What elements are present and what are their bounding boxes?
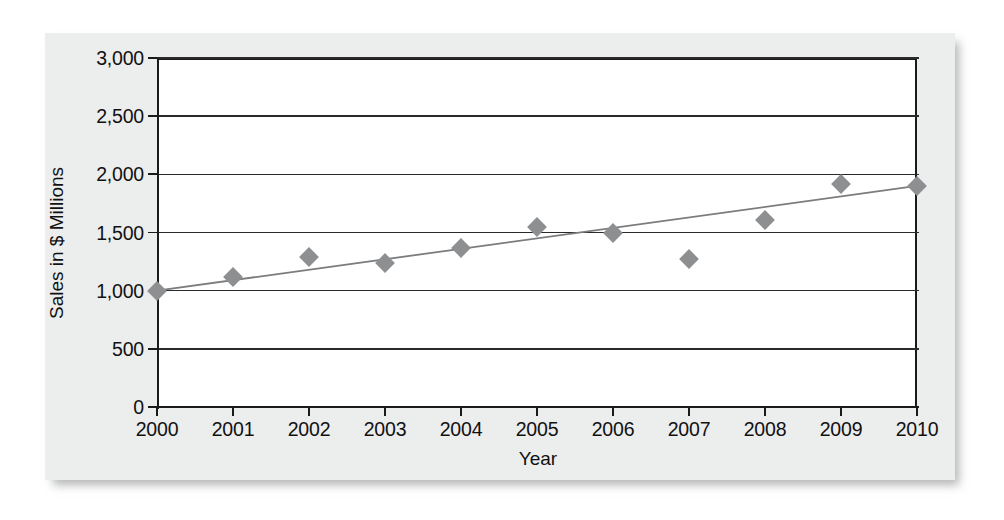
x-axis-line <box>157 406 919 408</box>
y-tick-mark <box>148 115 157 117</box>
y-axis-title: Sales in $ Millions <box>46 123 68 363</box>
y-tick-label: 1,500 <box>96 222 144 245</box>
x-tick-mark <box>688 407 690 416</box>
gridline <box>157 115 919 117</box>
y-tick-label: 500 <box>112 338 144 361</box>
y-axis-line <box>157 58 159 409</box>
x-tick-mark <box>840 407 842 416</box>
y-tick-mark <box>148 232 157 234</box>
x-tick-mark <box>536 407 538 416</box>
x-tick-mark <box>764 407 766 416</box>
gridline <box>157 348 919 350</box>
x-tick-mark <box>612 407 614 416</box>
y-tick-mark <box>148 57 157 59</box>
chart-figure: 05001,0001,5002,0002,5003,000 2000200120… <box>0 0 1004 520</box>
gridline <box>157 290 919 292</box>
x-tick-mark <box>916 407 918 416</box>
y-tick-label: 1,000 <box>96 280 144 303</box>
x-tick-mark <box>384 407 386 416</box>
x-tick-label: 2010 <box>872 418 962 441</box>
x-tick-mark <box>308 407 310 416</box>
gridline <box>157 174 919 176</box>
x-tick-mark <box>232 407 234 416</box>
gridline <box>157 57 919 59</box>
y-tick-label: 0 <box>133 396 144 419</box>
y-tick-mark <box>148 173 157 175</box>
y-tick-mark <box>148 348 157 350</box>
y-tick-label: 3,000 <box>96 47 144 70</box>
x-axis-title: Year <box>157 448 919 470</box>
x-tick-mark <box>460 407 462 416</box>
y-tick-label: 2,500 <box>96 105 144 128</box>
y-tick-label: 2,000 <box>96 163 144 186</box>
